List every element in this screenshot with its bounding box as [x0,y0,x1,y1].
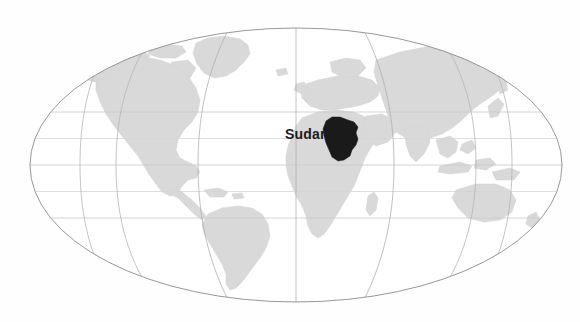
land-caribbean-2 [232,193,244,199]
sudan-country-label: Sudan [285,127,329,141]
world-locator-map: Sudan [0,0,580,322]
world-map-svg [0,0,580,322]
